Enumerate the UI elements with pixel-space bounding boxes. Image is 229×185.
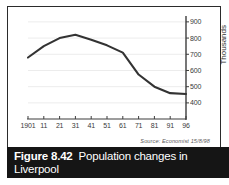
chart-area: Thousands Source: Economist 15/8/98 9008… bbox=[8, 7, 220, 143]
y-axis-tick-label: 800 bbox=[190, 35, 201, 42]
source-note: Source: Economist 15/8/98 bbox=[140, 138, 210, 144]
x-axis-tick-label: 1901 bbox=[20, 122, 36, 129]
y-axis-tick-label: 900 bbox=[190, 18, 201, 25]
x-axis-tick-label: 91 bbox=[162, 122, 178, 129]
x-axis-tick-label: 11 bbox=[36, 122, 52, 129]
y-axis-tick-label: 400 bbox=[190, 99, 201, 106]
y-axis-tick-label: 600 bbox=[190, 67, 201, 74]
x-axis-tick-label: 21 bbox=[52, 122, 68, 129]
y-axis-tick-label: 500 bbox=[190, 83, 201, 90]
x-axis-tick-label: 81 bbox=[146, 122, 162, 129]
x-axis-tick-label: 51 bbox=[99, 122, 115, 129]
data-line-population bbox=[28, 35, 186, 94]
figure-caption-bar: Figure 8.42 Population changes in Liverp… bbox=[7, 147, 229, 178]
x-axis-tick-label: 61 bbox=[115, 122, 131, 129]
x-axis-tick-label: 71 bbox=[131, 122, 147, 129]
line-chart-plot bbox=[26, 15, 194, 121]
x-axis-tick-label: 96 bbox=[178, 122, 194, 129]
y-axis-title: Thousands bbox=[219, 25, 228, 65]
x-axis-tick-label: 31 bbox=[67, 122, 83, 129]
plot-panel bbox=[26, 15, 194, 121]
figure-container: Thousands Source: Economist 15/8/98 9008… bbox=[0, 0, 229, 185]
y-axis-tick-label: 700 bbox=[190, 51, 201, 58]
figure-caption-text: Figure 8.42 Population changes in Liverp… bbox=[14, 150, 220, 175]
figure-caption-number: Figure 8.42 bbox=[14, 150, 73, 162]
x-axis-tick-label: 41 bbox=[83, 122, 99, 129]
